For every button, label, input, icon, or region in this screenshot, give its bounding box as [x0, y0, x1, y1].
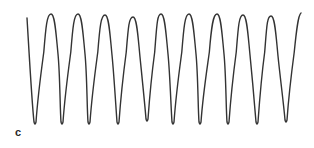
waveform-line	[27, 13, 301, 124]
waveform-plot	[0, 0, 314, 148]
panel-label: c	[15, 126, 21, 138]
